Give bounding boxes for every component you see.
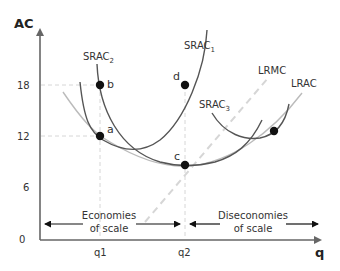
srac3-label: SRAC3 — [199, 99, 230, 113]
y-tick-0: 0 — [19, 234, 25, 245]
srac1-label: SRAC1 — [184, 40, 215, 54]
x-tick-q2: q2 — [178, 247, 191, 258]
point-b — [96, 81, 104, 89]
diseconomies-line1: Diseconomies — [218, 210, 288, 221]
srac2-label: SRAC2 — [83, 51, 114, 65]
point-a — [96, 132, 104, 140]
diseconomies-annotation: Diseconomies of scale — [190, 210, 318, 234]
x-axis-title: q — [315, 245, 324, 260]
label-c: c — [174, 150, 180, 163]
y-tick-18: 18 — [17, 80, 30, 91]
y-axis-title: AC — [14, 16, 34, 31]
label-d: d — [173, 70, 180, 83]
economies-line2: of scale — [90, 223, 129, 234]
lrmc-label: LRMC — [258, 65, 286, 76]
economies-annotation: Economies of scale — [45, 210, 180, 234]
economies-line1: Economies — [82, 210, 136, 221]
diseconomies-line2: of scale — [234, 223, 273, 234]
y-tick-6: 6 — [23, 182, 29, 193]
point-srac3-tangent — [270, 127, 278, 135]
lrac-curve — [63, 92, 302, 166]
point-c — [181, 161, 189, 169]
label-a: a — [107, 123, 114, 136]
label-b: b — [107, 78, 114, 91]
cost-curves-chart: b a d c AC q 18 12 6 0 q1 q2 SRAC2 SRAC1… — [0, 0, 340, 271]
y-tick-12: 12 — [17, 131, 30, 142]
point-d — [181, 81, 189, 89]
lrac-label: LRAC — [291, 78, 317, 89]
x-tick-q1: q1 — [94, 247, 107, 258]
